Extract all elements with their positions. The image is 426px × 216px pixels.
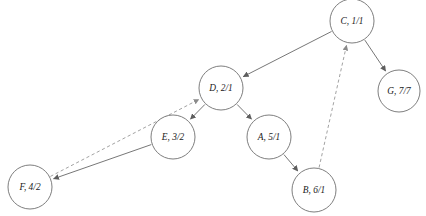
graph-node-b[interactable]: B, 6/1 xyxy=(292,168,336,212)
node-label-a: A, 5/1 xyxy=(257,132,280,142)
graph-node-c[interactable]: C, 1/1 xyxy=(330,0,374,43)
edge-c-to-g xyxy=(365,40,386,71)
graph-node-a[interactable]: A, 5/1 xyxy=(247,115,291,159)
node-label-b: B, 6/1 xyxy=(303,185,325,195)
graph-node-e[interactable]: E, 3/2 xyxy=(151,115,195,159)
graph-node-f[interactable]: F, 4/2 xyxy=(8,165,52,209)
graph-node-d[interactable]: D, 2/1 xyxy=(199,66,243,110)
edge-d-to-a xyxy=(237,104,251,119)
node-label-c: C, 1/1 xyxy=(341,16,364,26)
edge-c-to-d xyxy=(243,31,331,76)
node-label-d: D, 2/1 xyxy=(208,83,232,93)
edge-d-to-e xyxy=(190,104,204,119)
edge-b-to-c xyxy=(319,45,346,167)
edge-a-to-b xyxy=(284,155,298,171)
graph-svg: C, 1/1D, 2/1G, 7/7E, 3/2A, 5/1F, 4/2B, 6… xyxy=(0,0,426,216)
graph-node-g[interactable]: G, 7/7 xyxy=(378,70,420,112)
node-label-f: F, 4/2 xyxy=(18,182,40,192)
node-layer: C, 1/1D, 2/1G, 7/7E, 3/2A, 5/1F, 4/2B, 6… xyxy=(8,0,420,212)
node-label-g: G, 7/7 xyxy=(387,86,412,96)
graph-canvas: C, 1/1D, 2/1G, 7/7E, 3/2A, 5/1F, 4/2B, 6… xyxy=(0,0,426,216)
node-label-e: E, 3/2 xyxy=(161,132,185,142)
